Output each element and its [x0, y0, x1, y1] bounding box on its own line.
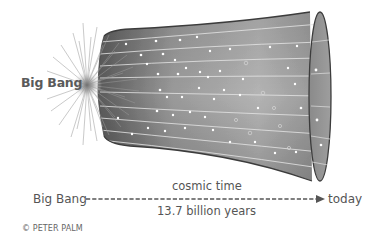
- cosmic-time-label: cosmic time: [172, 181, 242, 193]
- universe-funnel: [98, 12, 331, 181]
- copyright-credit: © PETER PALM: [22, 225, 83, 233]
- arrow-right-icon: [316, 195, 325, 203]
- big-bang-label: Big Bang: [21, 77, 82, 90]
- timeline-end-label: today: [328, 193, 362, 205]
- timeline-arrow: [86, 195, 325, 203]
- timeline-start-label: Big Bang: [33, 193, 87, 205]
- funnel-mouth: [309, 12, 331, 181]
- duration-label: 13.7 billion years: [157, 206, 256, 218]
